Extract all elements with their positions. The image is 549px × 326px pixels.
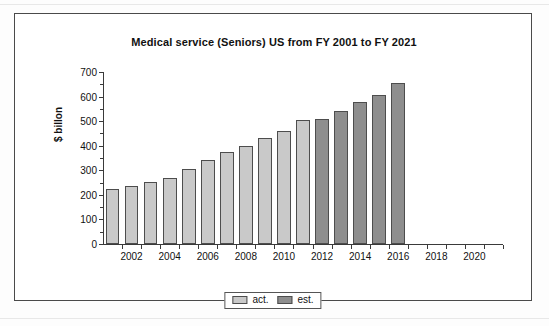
bar-est-2015	[372, 95, 386, 244]
legend-label-act: act.	[252, 295, 268, 305]
x-tick-label-2010: 2010	[273, 251, 295, 262]
bar-act-2001	[106, 189, 120, 244]
x-tick-2014	[370, 245, 371, 249]
bar-est-2013	[334, 111, 348, 244]
x-tick-2015	[389, 245, 390, 249]
page-edge-top	[0, 4, 549, 5]
y-tick-minor-450	[100, 133, 103, 134]
legend-label-est: est.	[298, 295, 314, 305]
x-tick-label-2006: 2006	[197, 251, 219, 262]
x-tick-label-2014: 2014	[349, 251, 371, 262]
y-axis-title: $ billon	[53, 107, 64, 142]
x-tick-2001	[122, 245, 123, 249]
y-tick-700	[99, 72, 103, 73]
x-tick-2016	[408, 245, 409, 249]
x-tick-2018	[446, 245, 447, 249]
y-tick-400	[99, 146, 103, 147]
y-axis-line	[103, 72, 104, 244]
y-tick-label-600: 600	[80, 91, 97, 102]
bar-act-2009	[258, 138, 272, 244]
legend-swatch-icon-est	[278, 296, 293, 304]
y-tick-label-200: 200	[80, 189, 97, 200]
bar-act-2008	[239, 146, 253, 244]
bar-act-2006	[201, 160, 215, 244]
x-tick-2008	[255, 245, 256, 249]
x-tick-2013	[351, 245, 352, 249]
x-tick-label-2004: 2004	[159, 251, 181, 262]
y-tick-100	[99, 219, 103, 220]
x-tick-2009	[274, 245, 275, 249]
x-tick-2017	[427, 245, 428, 249]
x-tick-2003	[160, 245, 161, 249]
bar-act-2004	[163, 178, 177, 244]
x-tick-2005	[198, 245, 199, 249]
chart-legend: act.est.	[224, 292, 321, 309]
x-tick-2004	[179, 245, 180, 249]
x-tick-2021	[503, 245, 504, 249]
x-tick-2019	[465, 245, 466, 249]
bar-act-2005	[182, 169, 196, 244]
y-tick-0	[99, 244, 103, 245]
x-tick-2012	[332, 245, 333, 249]
x-tick-2011	[313, 245, 314, 249]
bar-act-2011	[296, 120, 310, 244]
y-tick-minor-650	[100, 84, 103, 85]
y-tick-label-700: 700	[80, 67, 97, 78]
y-tick-label-500: 500	[80, 116, 97, 127]
y-tick-200	[99, 195, 103, 196]
y-tick-minor-350	[100, 158, 103, 159]
x-tick-2002	[141, 245, 142, 249]
y-tick-minor-250	[100, 183, 103, 184]
y-tick-minor-150	[100, 207, 103, 208]
bar-act-2010	[277, 131, 291, 244]
bar-est-2016	[391, 83, 405, 244]
legend-swatch-icon-act	[232, 296, 247, 304]
x-tick-label-2020: 2020	[463, 251, 485, 262]
x-tick-label-2016: 2016	[387, 251, 409, 262]
screenshot-page: Medical service (Seniors) US from FY 200…	[0, 0, 549, 326]
x-axis-line	[103, 244, 503, 245]
x-tick-2010	[293, 245, 294, 249]
y-tick-label-0: 0	[91, 239, 97, 250]
y-tick-minor-550	[100, 109, 103, 110]
y-tick-minor-50	[100, 232, 103, 233]
y-tick-label-400: 400	[80, 140, 97, 151]
page-edge-bottom	[0, 318, 549, 319]
x-tick-label-2002: 2002	[120, 251, 142, 262]
y-tick-600	[99, 97, 103, 98]
plot-area: 0100200300400500600700 20022004200620082…	[103, 72, 503, 244]
y-tick-500	[99, 121, 103, 122]
x-tick-label-2018: 2018	[425, 251, 447, 262]
bar-est-2012	[315, 119, 329, 244]
x-tick-2020	[484, 245, 485, 249]
x-tick-label-2008: 2008	[235, 251, 257, 262]
y-tick-300	[99, 170, 103, 171]
x-tick-2006	[217, 245, 218, 249]
y-tick-label-300: 300	[80, 165, 97, 176]
chart-frame: Medical service (Seniors) US from FY 200…	[14, 13, 532, 301]
chart-title: Medical service (Seniors) US from FY 200…	[15, 36, 533, 48]
x-tick-2007	[236, 245, 237, 249]
legend-item-est: est.	[278, 295, 314, 305]
y-tick-label-100: 100	[80, 214, 97, 225]
bar-act-2003	[144, 182, 158, 244]
bar-act-2007	[220, 152, 234, 244]
legend-item-act: act.	[232, 295, 268, 305]
bar-est-2014	[353, 102, 367, 244]
x-tick-label-2012: 2012	[311, 251, 333, 262]
bar-act-2002	[125, 186, 139, 244]
